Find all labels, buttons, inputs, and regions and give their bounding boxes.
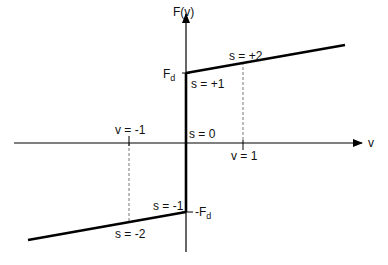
fd-neg-label: -Fd: [195, 205, 211, 221]
region-s-plus2: s = +2: [229, 49, 263, 63]
fd-pos-label: Fd: [163, 67, 175, 83]
region-s-zero: s = 0: [189, 127, 216, 141]
region-s-minus1: s = -1: [153, 199, 184, 213]
tick-label-v-neg: v = -1: [115, 123, 146, 137]
x-axis-label: v: [368, 136, 374, 150]
y-axis-label: F(v): [173, 5, 194, 19]
region-s-minus2: s = -2: [115, 227, 146, 241]
friction-diagram: v F(v) Fd -Fd s = +2 s = +1 s = 0 s = -1…: [0, 0, 388, 265]
lower-slope-line: [28, 212, 186, 240]
region-s-plus1: s = +1: [191, 77, 225, 91]
tick-label-v-pos: v = 1: [231, 149, 258, 163]
upper-slope-line: [186, 45, 345, 73]
